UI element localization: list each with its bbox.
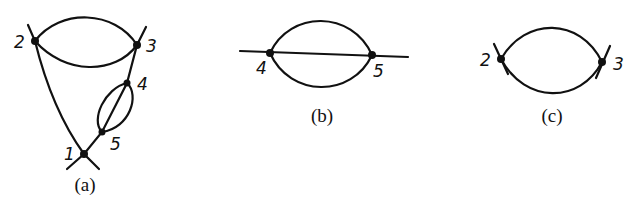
diagram-b-arc-top bbox=[270, 21, 372, 55]
diagram-a-label-3: 3 bbox=[146, 36, 157, 56]
diagram-a-loop-2-3-top bbox=[35, 17, 137, 45]
diagram-b-label-5: 5 bbox=[373, 61, 384, 81]
diagram-b-through-line bbox=[240, 51, 408, 57]
diagram-c-caption: (c) bbox=[541, 105, 562, 127]
diagram-a-label-1: 1 bbox=[64, 144, 75, 164]
diagram-a-vertex-1 bbox=[80, 150, 88, 158]
diagram-a-label-4: 4 bbox=[137, 74, 148, 94]
diagram-c-vertex-2 bbox=[497, 55, 505, 63]
diagram-c: 2 3 (c) bbox=[480, 28, 624, 127]
diagram-a-caption: (a) bbox=[74, 174, 95, 196]
diagram-a-loop-2-3-bottom bbox=[35, 41, 137, 67]
diagram-a-vertex-2 bbox=[31, 37, 39, 45]
diagram-b-arc-bottom bbox=[270, 53, 372, 87]
diagram-a-vertex-3 bbox=[133, 41, 141, 49]
diagram-b: 4 5 (b) bbox=[240, 21, 408, 127]
diagram-b-label-4: 4 bbox=[256, 58, 267, 78]
diagram-b-vertex-5 bbox=[368, 51, 376, 59]
diagram-b-vertex-4 bbox=[266, 49, 274, 57]
diagram-c-arc-top bbox=[501, 28, 602, 62]
diagram-c-label-2: 2 bbox=[480, 50, 491, 70]
diagram-c-label-3: 3 bbox=[613, 54, 624, 74]
diagram-c-arc-bottom bbox=[501, 59, 602, 93]
diagram-a-label-2: 2 bbox=[14, 32, 25, 52]
diagram-a-vertex-4 bbox=[124, 80, 131, 87]
diagram-a: 2 3 4 5 1 (a) bbox=[14, 17, 157, 196]
feynman-diagrams-figure: 2 3 4 5 1 (a) 4 5 (b) 2 3 (c) bbox=[0, 0, 634, 212]
diagram-b-caption: (b) bbox=[311, 105, 333, 127]
diagram-a-label-5: 5 bbox=[110, 134, 121, 154]
diagram-a-vertex-5 bbox=[99, 129, 106, 136]
diagram-c-vertex-3 bbox=[598, 58, 606, 66]
